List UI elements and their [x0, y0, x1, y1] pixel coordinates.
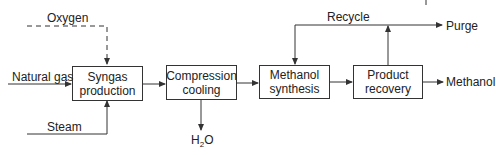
steam-label: Steam [47, 120, 82, 134]
water-label-h: H [191, 133, 200, 147]
oxygen-stream-line [27, 26, 107, 64]
oxygen-label: Oxygen [47, 11, 88, 25]
syngas-production-block: Syngas production [72, 66, 143, 101]
water-label-o: O [204, 133, 213, 147]
water-label: H2O [191, 133, 213, 152]
product-recovery-block: Product recovery [353, 65, 423, 99]
methanol-synthesis-block: Methanol synthesis [259, 65, 330, 99]
methanol-label: Methanol [446, 75, 495, 89]
compression-cooling-block: Compression cooling [166, 65, 237, 100]
natural-gas-label: Natural gas [12, 70, 73, 84]
purge-label: Purge [446, 19, 478, 33]
recycle-label: Recycle [327, 10, 370, 24]
